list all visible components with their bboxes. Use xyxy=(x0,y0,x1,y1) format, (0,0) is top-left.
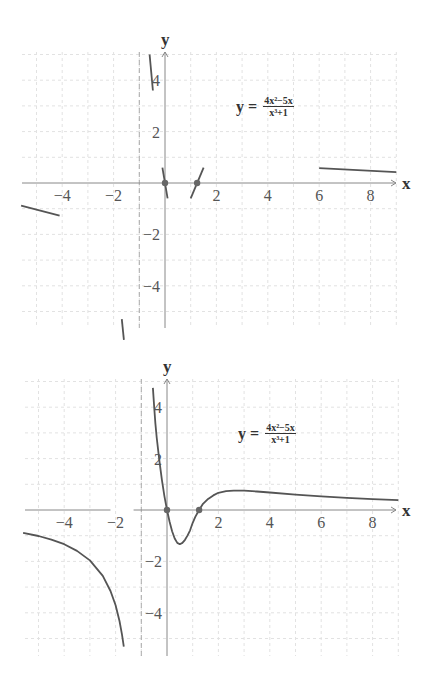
equation-lhs: y = xyxy=(238,425,259,443)
top-equation-label: y = 4x²−5x x³+1 xyxy=(236,95,294,118)
equation-denominator: x³+1 xyxy=(269,107,288,118)
top-plot-tangent-segments: xy−4−2246842−2−4 y = 4x²−5x x³+1 xyxy=(0,0,428,345)
y-tick-label: 2 xyxy=(152,124,160,141)
intercept-point xyxy=(194,180,200,186)
intercept-point xyxy=(164,507,170,513)
curve-segment-right xyxy=(319,168,396,172)
y-tick-label: −4 xyxy=(143,278,160,295)
equation-numerator: 4x²−5x xyxy=(265,422,296,434)
y-axis-label: y xyxy=(163,357,172,376)
x-tick-label: 6 xyxy=(315,187,323,204)
grid xyxy=(22,52,396,328)
grid xyxy=(25,379,398,656)
x-axis-label: x xyxy=(402,501,411,520)
bottom-plot-canvas: xy−4−2246842−2−4 xyxy=(0,345,428,690)
intercept-point xyxy=(162,180,168,186)
y-tick-label: −2 xyxy=(143,226,160,243)
intercept-point xyxy=(196,507,202,513)
x-tick-label: 8 xyxy=(367,187,375,204)
curve-segment-left xyxy=(21,206,60,216)
y-axis-label: y xyxy=(161,30,170,49)
x-axis-label: x xyxy=(402,174,411,193)
x-tick-label: −2 xyxy=(107,514,124,531)
equation-lhs: y = xyxy=(236,98,257,116)
curve-segment-near-asymptote-low xyxy=(122,319,124,340)
top-plot-canvas: xy−4−2246842−2−4 xyxy=(0,0,428,345)
x-tick-label: 4 xyxy=(264,187,272,204)
equation-fraction: 4x²−5x x³+1 xyxy=(263,95,294,118)
x-tick-label: 2 xyxy=(212,187,220,204)
x-tick-label: −4 xyxy=(54,187,71,204)
x-tick-label: 4 xyxy=(266,514,274,531)
x-tick-label: 6 xyxy=(317,514,325,531)
y-tick-label: −2 xyxy=(145,553,162,570)
equation-numerator: 4x²−5x xyxy=(263,95,294,107)
x-tick-label: −4 xyxy=(56,514,73,531)
y-tick-label: −4 xyxy=(145,605,162,622)
equation-fraction: 4x²−5x x³+1 xyxy=(265,422,296,445)
x-tick-label: 2 xyxy=(214,514,222,531)
curve-right-branch xyxy=(153,388,398,544)
equation-denominator: x³+1 xyxy=(271,434,290,445)
bottom-equation-label: y = 4x²−5x x³+1 xyxy=(238,422,296,445)
x-tick-label: −2 xyxy=(105,187,122,204)
bottom-plot-full-curve: xy−4−2246842−2−4 y = 4x²−5x x³+1 xyxy=(0,345,428,690)
x-tick-label: 8 xyxy=(369,514,377,531)
